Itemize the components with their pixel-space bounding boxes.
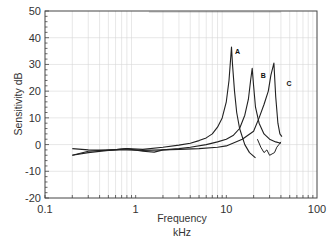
chart-svg: -20-1001020304050 0.1110100 ABC Frequenc…	[0, 0, 334, 247]
y-tick-label: 50	[29, 5, 41, 17]
y-tick-labels: -20-1001020304050	[25, 5, 41, 204]
x-axis-title: Frequency	[157, 212, 207, 224]
data-curves	[72, 12, 282, 158]
curve-b	[72, 68, 281, 155]
y-tick-label: -10	[25, 165, 41, 177]
y-tick-label: 10	[29, 112, 41, 124]
y-tick-label: 0	[35, 139, 41, 151]
y-tick-label: 20	[29, 85, 41, 97]
y-tick-label: 40	[29, 32, 41, 44]
curve-label-b: B	[261, 72, 266, 79]
y-tick-label: 30	[29, 58, 41, 70]
x-axis-unit: kHz	[173, 226, 191, 238]
curve-label-c: C	[286, 80, 291, 87]
curve-labels: ABC	[235, 48, 291, 87]
curve-label-a: A	[235, 48, 240, 55]
y-axis-title: Sensitivity dB	[12, 72, 24, 135]
curve-c-dip	[257, 139, 281, 155]
x-tick-label: 10	[220, 203, 232, 215]
x-tick-label: 0.1	[37, 203, 52, 215]
x-tick-label: 100	[308, 203, 326, 215]
curve-c	[72, 63, 282, 155]
x-tick-label: 1	[133, 203, 139, 215]
